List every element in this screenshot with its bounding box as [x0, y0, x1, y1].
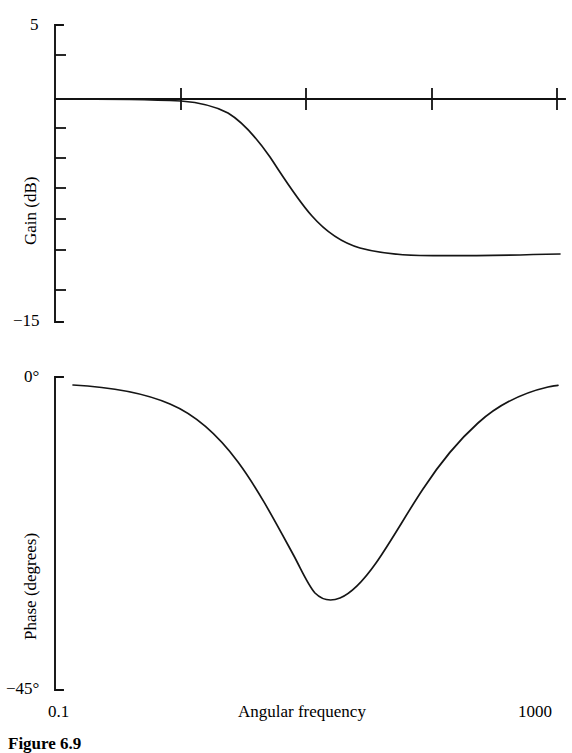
phase-y-top-label: 0° — [24, 368, 39, 385]
gain-y-ticks — [55, 55, 66, 290]
x-axis-left-label: 0.1 — [48, 703, 69, 720]
gain-curve — [57, 99, 560, 256]
phase-y-axis — [55, 377, 63, 690]
x-axis-title: Angular frequency — [238, 703, 366, 720]
gain-y-top-label: 5 — [30, 16, 39, 33]
gain-y-axis-title: Gain (dB) — [22, 177, 39, 245]
phase-y-axis-title: Phase (degrees) — [22, 533, 39, 640]
gain-y-axis — [55, 25, 63, 322]
x-axis-right-label: 1000 — [518, 703, 552, 720]
figure-caption: Figure 6.9 — [8, 735, 81, 752]
phase-panel — [55, 377, 558, 690]
phase-curve — [73, 385, 558, 600]
phase-y-bottom-label: −45° — [6, 680, 39, 697]
gain-y-bottom-label: −15 — [13, 312, 40, 329]
gain-panel — [55, 25, 565, 322]
